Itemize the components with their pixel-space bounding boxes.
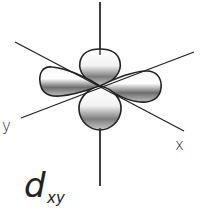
x-axis-label: x <box>175 136 184 154</box>
orbital-subscript: xy <box>47 191 65 206</box>
y-axis-label: y <box>2 117 11 135</box>
orbital-name: d <box>24 168 46 202</box>
